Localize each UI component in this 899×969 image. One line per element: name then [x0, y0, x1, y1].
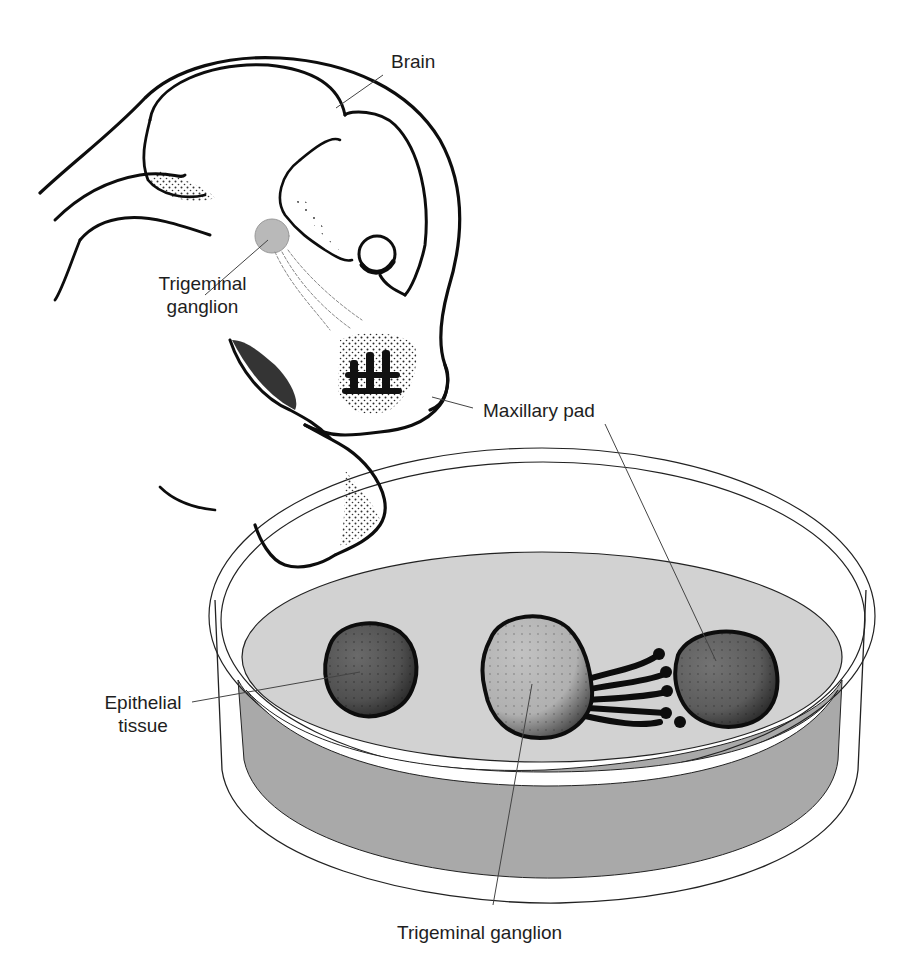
- label-trigeminal-ganglion-embryo-line1: Trigeminal: [140, 272, 265, 295]
- leader-brain: [336, 75, 383, 108]
- label-epithelial-tissue-line2: tissue: [93, 714, 193, 737]
- label-trigeminal-ganglion-embryo-line2: ganglion: [140, 295, 265, 318]
- illustration-canvas: [0, 0, 899, 969]
- label-maxillary-pad: Maxillary pad: [483, 399, 595, 422]
- label-trigeminal-ganglion-embryo: Trigeminal ganglion: [140, 272, 265, 318]
- label-epithelial-tissue: Epithelial tissue: [93, 691, 193, 737]
- label-trigeminal-ganglion-dish: Trigeminal ganglion: [397, 921, 562, 944]
- label-epithelial-tissue-line1: Epithelial: [93, 691, 193, 714]
- embryo-trigeminal-ganglion: [255, 219, 289, 253]
- label-brain: Brain: [391, 50, 435, 73]
